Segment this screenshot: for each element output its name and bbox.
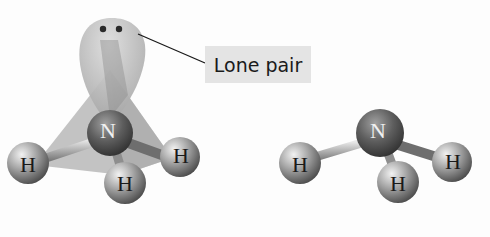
- svg-text:H: H: [20, 152, 36, 177]
- leader-line: [138, 34, 205, 63]
- ammonia-diagram: N H H H N: [0, 0, 490, 237]
- hydrogen-atom: H: [7, 142, 49, 184]
- svg-text:H: H: [292, 152, 308, 177]
- nitrogen-atom: N: [87, 110, 133, 156]
- svg-text:H: H: [390, 171, 406, 196]
- nitrogen-atom: N: [356, 109, 404, 157]
- lone-pair-electron-icon: [116, 26, 122, 32]
- tetrahedral-model: N H H H: [7, 18, 205, 204]
- trigonal-pyramidal-model: N H H H: [279, 109, 472, 203]
- molecule-drawing: N H H H N: [0, 0, 490, 237]
- lone-pair-label-text: Lone pair: [214, 54, 302, 76]
- hydrogen-atom: H: [377, 161, 419, 203]
- lone-pair-label: Lone pair: [205, 46, 311, 83]
- hydrogen-atom: H: [160, 137, 200, 177]
- hydrogen-atom: H: [432, 142, 472, 182]
- svg-text:H: H: [445, 149, 461, 174]
- svg-text:N: N: [370, 118, 386, 143]
- svg-text:N: N: [100, 118, 116, 143]
- hydrogen-atom: H: [279, 142, 321, 184]
- lone-pair-electron-icon: [100, 26, 106, 32]
- hydrogen-atom: H: [104, 162, 146, 204]
- svg-text:H: H: [173, 143, 189, 168]
- svg-text:H: H: [117, 171, 133, 196]
